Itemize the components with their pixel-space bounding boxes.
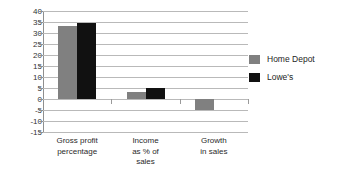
y-axis-line: [43, 11, 44, 132]
x-axis-label-line: in sales: [180, 147, 248, 158]
y-tick-label: 35: [14, 18, 42, 27]
gridline: [43, 132, 248, 133]
y-tick-mark: [39, 77, 43, 78]
gridline: [43, 99, 248, 100]
gridline: [43, 11, 248, 12]
y-tick-mark: [39, 132, 43, 133]
x-axis-label-line: Income: [111, 136, 179, 147]
y-tick-label: 5: [14, 84, 42, 93]
y-tick-label: 15: [14, 62, 42, 71]
x-tick-mark: [111, 99, 112, 104]
legend-swatch-lowes: [249, 73, 260, 82]
x-tick-mark: [248, 99, 249, 104]
y-tick-mark: [39, 22, 43, 23]
y-tick-mark: [39, 66, 43, 67]
x-axis-label-line: Gross profit: [43, 136, 111, 147]
y-tick-mark: [39, 99, 43, 100]
plot-area: [43, 11, 248, 132]
bar: [77, 23, 96, 99]
legend-swatch-home-depot: [249, 55, 260, 64]
y-tick-label: 10: [14, 73, 42, 82]
y-tick-label: 0: [14, 95, 42, 104]
x-axis-label-line: Growth: [180, 136, 248, 147]
y-tick-mark: [39, 55, 43, 56]
y-tick-mark: [39, 88, 43, 89]
x-axis-label: Growthin sales: [180, 136, 248, 157]
y-tick-mark: [39, 110, 43, 111]
y-tick-label: -15: [14, 128, 42, 137]
x-axis-label-line: as % of: [111, 147, 179, 158]
y-tick-label: 20: [14, 51, 42, 60]
chart-legend: Home Depot Lowe's: [249, 50, 349, 86]
legend-label-home-depot: Home Depot: [267, 54, 315, 64]
y-tick-mark: [39, 44, 43, 45]
y-axis-labels: 4035302520151050-5-10-15: [14, 8, 42, 132]
y-tick-label: -10: [14, 117, 42, 126]
gridline: [43, 22, 248, 23]
legend-label-lowes: Lowe's: [267, 72, 293, 82]
x-axis-label: Incomeas % ofsales: [111, 136, 179, 168]
y-tick-mark: [39, 121, 43, 122]
y-tick-label: 30: [14, 29, 42, 38]
legend-item-home-depot: Home Depot: [249, 50, 349, 68]
x-axis-label-line: percentage: [43, 147, 111, 158]
y-tick-mark: [39, 33, 43, 34]
x-tick-mark: [180, 99, 181, 104]
gridline: [43, 121, 248, 122]
y-tick-mark: [39, 11, 43, 12]
y-tick-label: 25: [14, 40, 42, 49]
y-tick-label: -5: [14, 106, 42, 115]
bar: [58, 26, 77, 99]
bar-chart: 4035302520151050-5-10-15 Gross profitper…: [0, 0, 356, 178]
bar: [127, 92, 146, 99]
legend-item-lowes: Lowe's: [249, 68, 349, 86]
gridline: [43, 110, 248, 111]
y-tick-label: 40: [14, 7, 42, 16]
x-axis-label-line: sales: [111, 157, 179, 168]
bar: [146, 88, 165, 99]
x-axis-labels: Gross profitpercentageIncomeas % ofsales…: [43, 136, 248, 178]
x-axis-label: Gross profitpercentage: [43, 136, 111, 157]
bar: [195, 99, 214, 110]
